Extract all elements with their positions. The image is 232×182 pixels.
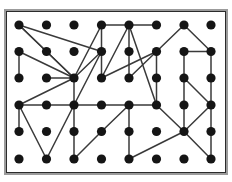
graph-node[interactable]: [14, 73, 23, 82]
graph-node[interactable]: [14, 47, 23, 56]
graph-node[interactable]: [124, 20, 133, 29]
graph-node[interactable]: [206, 73, 215, 82]
graph-node[interactable]: [97, 100, 106, 109]
graph-edge: [184, 105, 211, 132]
graph-node[interactable]: [14, 20, 23, 29]
graph-node[interactable]: [179, 47, 188, 56]
graph-node[interactable]: [206, 127, 215, 136]
graph-node[interactable]: [124, 154, 133, 163]
graph-edge: [74, 52, 102, 79]
diagram-canvas: [0, 0, 232, 182]
graph-node[interactable]: [97, 20, 106, 29]
graph-node[interactable]: [69, 73, 78, 82]
graph-node[interactable]: [152, 20, 161, 29]
graph-node[interactable]: [152, 127, 161, 136]
graph-node[interactable]: [179, 20, 188, 29]
graph-node[interactable]: [42, 73, 51, 82]
graph-node[interactable]: [179, 100, 188, 109]
graph-edge: [184, 132, 211, 160]
graph-edge: [129, 52, 157, 79]
graph-node[interactable]: [124, 100, 133, 109]
graph-node[interactable]: [124, 73, 133, 82]
graph-node[interactable]: [69, 20, 78, 29]
graph-node[interactable]: [42, 47, 51, 56]
graph-node[interactable]: [152, 47, 161, 56]
graph-edge: [47, 52, 75, 79]
graph-node[interactable]: [14, 100, 23, 109]
graph-node[interactable]: [69, 154, 78, 163]
graph-node[interactable]: [206, 100, 215, 109]
graph-edge: [74, 132, 102, 160]
graph-node[interactable]: [42, 127, 51, 136]
graph-edge: [157, 105, 185, 132]
graph-node[interactable]: [124, 47, 133, 56]
graph-node[interactable]: [206, 47, 215, 56]
graph-node[interactable]: [206, 154, 215, 163]
graph-node[interactable]: [97, 154, 106, 163]
graph-node[interactable]: [179, 127, 188, 136]
graph-node[interactable]: [69, 100, 78, 109]
graph-node[interactable]: [69, 127, 78, 136]
graph-node[interactable]: [179, 154, 188, 163]
graph-edge: [184, 78, 211, 105]
graph-node[interactable]: [42, 100, 51, 109]
graph-node[interactable]: [206, 20, 215, 29]
graph-node[interactable]: [152, 100, 161, 109]
graph-node[interactable]: [14, 154, 23, 163]
graph-node[interactable]: [97, 47, 106, 56]
graph-node[interactable]: [124, 127, 133, 136]
node-link-graph: [0, 0, 232, 182]
graph-node[interactable]: [14, 127, 23, 136]
graph-node[interactable]: [97, 73, 106, 82]
graph-edge: [184, 25, 211, 52]
graph-node[interactable]: [97, 127, 106, 136]
edge-layer: [19, 25, 211, 159]
graph-edge: [157, 25, 185, 52]
graph-node[interactable]: [69, 47, 78, 56]
graph-node[interactable]: [152, 154, 161, 163]
graph-node[interactable]: [42, 154, 51, 163]
graph-node[interactable]: [42, 20, 51, 29]
graph-node[interactable]: [152, 73, 161, 82]
graph-edge: [102, 105, 130, 132]
graph-node[interactable]: [179, 73, 188, 82]
